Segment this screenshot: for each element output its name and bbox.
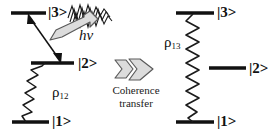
right-level-3-label: |3>: [217, 5, 236, 20]
left-level-2-label: |2>: [78, 56, 97, 71]
left-level-3-label: |3>: [48, 5, 67, 20]
figure-canvas: [0, 0, 280, 136]
rho-12-coherence-squiggle: [22, 63, 45, 122]
rho-12-symbol: ρ: [52, 84, 60, 100]
rho-13-coherence-squiggle: [186, 14, 199, 122]
rho-12-subscript: 12: [60, 91, 69, 101]
right-level-2-label: |2>: [249, 61, 268, 76]
coherence-transfer-figure: |3> |2> |1> ρ12 hν Coherence transfer |3…: [0, 0, 280, 136]
rho-13-subscript: 13: [172, 41, 181, 51]
photon-energy-label: hν: [79, 28, 93, 43]
coherence-transfer-caption-line-2: transfer: [103, 97, 169, 110]
rho-13-label: ρ13: [164, 35, 181, 50]
right-level-1-label: |1>: [217, 114, 236, 129]
rho-13-symbol: ρ: [164, 34, 172, 50]
coherence-transfer-arrow-icon: [115, 59, 153, 80]
coherence-transfer-caption-line-1: Coherence: [103, 84, 169, 97]
left-level-1-label: |1>: [52, 114, 71, 129]
rho-12-label: ρ12: [52, 85, 69, 100]
